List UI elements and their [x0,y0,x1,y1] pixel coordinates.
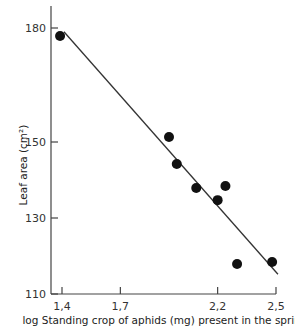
data-point [232,259,242,269]
scatter-chart: 1,41,72,22,5110130150180 log Standing cr… [0,0,295,332]
x-tick-label: 2,5 [267,300,285,313]
y-tick-label: 130 [25,212,46,225]
x-tick-label: 1,4 [53,300,71,313]
ticks: 1,41,72,22,5110130150180 [25,22,285,313]
data-points [55,31,277,269]
y-axis-label: Leaf area (cm²) [17,125,29,206]
axes [51,6,276,294]
data-point [172,159,182,169]
data-point [164,132,174,142]
data-point [191,183,201,193]
x-tick-label: 2,2 [209,300,227,313]
y-tick-label: 180 [25,22,46,35]
fit-line [64,32,278,274]
data-point [55,31,65,41]
x-tick-label: 1,7 [112,300,130,313]
data-point [213,195,223,205]
data-point [220,181,230,191]
x-axis-label: log Standing crop of aphids (mg) present… [22,314,295,326]
data-point [267,257,277,267]
y-tick-label: 110 [25,288,46,301]
regression-line [64,32,278,274]
